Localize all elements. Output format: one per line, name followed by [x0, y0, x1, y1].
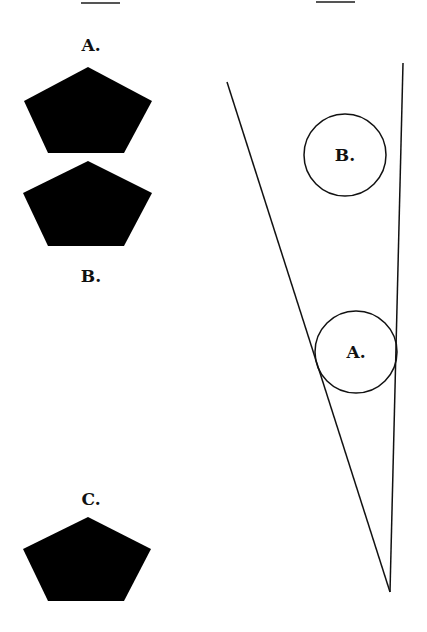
pentagon-b [23, 161, 152, 246]
wedge-left-line [227, 82, 390, 592]
label-a-left: A. [80, 35, 100, 55]
label-b-circle: B. [335, 145, 355, 165]
pentagon-a [24, 67, 152, 153]
label-a-circle: A. [345, 342, 365, 362]
wedge-right-line [390, 63, 403, 592]
pentagon-c [23, 517, 151, 601]
label-b-left: B. [81, 266, 101, 286]
diagram-canvas: A. B. C. B. A. [0, 0, 427, 632]
label-c-left: C. [81, 489, 100, 509]
